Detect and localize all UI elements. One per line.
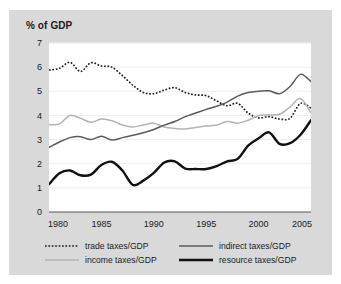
y-axis-tick-labels: 01234567 [37,38,42,217]
y-tick-label: 7 [37,38,42,48]
y-tick-label: 5 [37,86,42,96]
y-tick-label: 0 [37,207,42,217]
x-tick-label: 2000 [249,219,269,229]
x-tick-label: 1995 [196,219,216,229]
figure-root: % of GDP 01234567 1980198519901995200020… [0,0,341,284]
legend-label: resource taxes/GDP [219,255,297,265]
x-tick-label: 2005 [292,219,312,229]
x-tick-label: 1980 [48,219,68,229]
legend-label: trade taxes/GDP [85,241,149,251]
plot-background [49,43,311,212]
y-tick-label: 3 [37,135,42,145]
legend-label: income taxes/GDP [85,255,157,265]
legend-label: indirect taxes/GDP [219,241,291,251]
line-chart: 01234567 198019851990199520002005 trade … [9,10,332,275]
plot-area-wrapper: 01234567 198019851990199520002005 trade … [9,10,332,275]
chart-legend: trade taxes/GDPindirect taxes/GDPincome … [45,241,297,265]
x-axis-tick-labels: 198019851990199520002005 [48,219,312,229]
y-tick-label: 2 [37,159,42,169]
y-tick-label: 4 [37,111,42,121]
y-tick-label: 6 [37,62,42,72]
x-tick-label: 1990 [144,219,164,229]
y-tick-label: 1 [37,183,42,193]
x-tick-label: 1985 [91,219,111,229]
chart-card: % of GDP 01234567 1980198519901995200020… [9,10,332,275]
